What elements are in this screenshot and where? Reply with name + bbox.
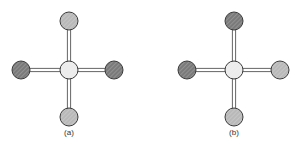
atom-top-dark — [225, 12, 243, 30]
panel-a — [12, 12, 123, 126]
molecule-diagram — [0, 0, 300, 148]
atom-center — [225, 61, 243, 79]
atom-right-dark — [105, 61, 123, 79]
atom-right-medium — [271, 61, 289, 79]
panel-a-label: (a) — [0, 128, 138, 137]
panel-b — [178, 12, 289, 126]
atom-left-dark — [178, 61, 196, 79]
atom-top-medium — [60, 12, 78, 30]
atom-center — [60, 61, 78, 79]
atom-bottom-medium — [225, 108, 243, 126]
panel-b-label: (b) — [165, 128, 300, 137]
atom-bottom-medium — [60, 108, 78, 126]
atom-left-dark — [12, 61, 30, 79]
